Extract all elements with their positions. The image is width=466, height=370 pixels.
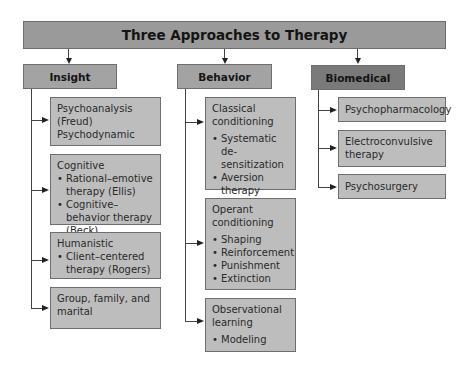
node-heading: Group, family, and marital [57,292,154,318]
bullet-item: Systematic de-sensitization [212,132,289,171]
bullet-item: Reinforcement [212,246,289,259]
node-heading: Operant conditioning [212,203,289,229]
node-subheading: Psychodynamic [57,128,154,141]
node-heading: Observational learning [212,303,289,329]
arrow-right-icon [197,318,204,324]
diagram-title: Three Approaches to Therapy [23,21,446,49]
bullet-item: Rational–emotive therapy (Ellis) [57,172,154,198]
node-group-family-marital: Group, family, and marital [50,287,161,329]
category-insight: Insight [23,64,117,89]
arrow-right-icon [42,257,49,263]
arrow-right-icon [330,145,337,151]
node-heading: Psychosurgery [345,180,439,193]
node-heading: Psychoanalysis (Freud) [57,102,154,128]
node-classical-conditioning: Classical conditioning Systematic de-sen… [205,97,296,190]
arrow-right-icon [330,107,337,113]
arrow-right-icon [42,305,49,311]
node-heading: Classical conditioning [212,102,289,128]
node-psychosurgery: Psychosurgery [338,174,446,199]
category-behavior: Behavior [177,64,272,89]
connector-line [318,90,319,187]
node-operant-conditioning: Operant conditioning Shaping Reinforceme… [205,198,296,290]
node-observational-learning: Observational learning Modeling [205,298,296,352]
arrow-down-icon [355,58,361,64]
node-humanistic: Humanistic Client–centered therapy (Roge… [50,232,161,279]
connector-line [31,89,32,308]
arrow-right-icon [330,184,337,190]
category-biomedical: Biomedical [311,65,405,90]
category-label: Biomedical [326,72,391,84]
bullet-item: Aversion therapy [212,171,289,197]
arrow-right-icon [197,240,204,246]
node-cognitive: Cognitive Rational–emotive therapy (Elli… [50,154,161,225]
arrow-right-icon [197,119,204,125]
bullet-item: Modeling [212,333,289,346]
node-heading: Humanistic [57,237,154,250]
node-psychoanalysis: Psychoanalysis (Freud) Psychodynamic [50,97,161,146]
node-psychopharmacology: Psychopharmacology [338,97,446,122]
bullet-item: Client–centered therapy (Rogers) [57,250,154,276]
node-heading: Electroconvulsive therapy [345,135,439,161]
arrow-right-icon [42,187,49,193]
bullet-item: Extinction [212,272,289,285]
bullet-item: Shaping [212,233,289,246]
node-heading: Cognitive [57,159,154,172]
diagram-title-text: Three Approaches to Therapy [122,27,347,43]
bullet-item: Punishment [212,259,289,272]
connector-line [185,89,186,321]
arrow-right-icon [42,117,49,123]
node-electroconvulsive-therapy: Electroconvulsive therapy [338,130,446,167]
category-label: Behavior [198,71,251,83]
category-label: Insight [49,71,90,83]
node-heading: Psychopharmacology [345,103,439,116]
